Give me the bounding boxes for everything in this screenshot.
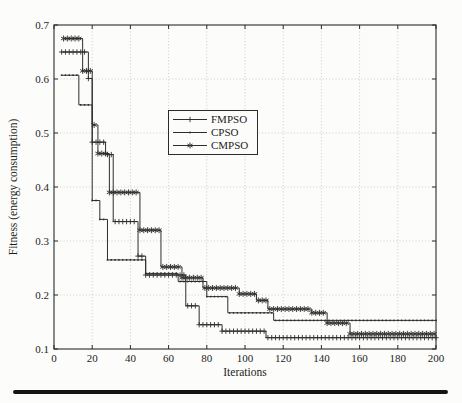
- svg-text:0.3: 0.3: [35, 235, 49, 247]
- svg-text:0.4: 0.4: [35, 181, 49, 193]
- legend-item-fmpso: FMPSO: [172, 113, 257, 126]
- plus-marker-icon: [172, 114, 208, 125]
- svg-text:200: 200: [428, 352, 445, 364]
- dot-marker-icon: [172, 127, 208, 138]
- svg-text:20: 20: [87, 352, 99, 364]
- svg-text:180: 180: [390, 352, 407, 364]
- svg-text:0.1: 0.1: [35, 343, 49, 355]
- legend-item-cpso: CPSO: [172, 126, 257, 139]
- x-axis-title: Iterations: [54, 366, 436, 378]
- svg-text:0.2: 0.2: [35, 289, 49, 301]
- svg-text:0.7: 0.7: [35, 19, 49, 31]
- svg-text:0.6: 0.6: [35, 73, 49, 85]
- svg-text:120: 120: [275, 352, 292, 364]
- legend: FMPSO CPSO CMPSO: [168, 110, 258, 155]
- svg-text:0: 0: [51, 352, 57, 364]
- legend-label: CMPSO: [211, 140, 248, 151]
- asterisk-marker-icon: [172, 140, 208, 151]
- legend-label: FMPSO: [211, 114, 247, 125]
- legend-item-cmpso: CMPSO: [172, 139, 257, 152]
- svg-text:160: 160: [351, 352, 368, 364]
- svg-text:100: 100: [237, 352, 254, 364]
- figure: 0204060801001201401601802000.10.20.30.40…: [0, 0, 462, 403]
- y-axis-title: Fitness (energy consumption): [7, 119, 19, 256]
- svg-text:0.5: 0.5: [35, 127, 49, 139]
- legend-label: CPSO: [211, 127, 239, 138]
- svg-text:80: 80: [201, 352, 213, 364]
- svg-text:60: 60: [163, 352, 175, 364]
- line-chart: 0204060801001201401601802000.10.20.30.40…: [0, 0, 462, 403]
- bottom-rule: [13, 390, 448, 394]
- svg-text:40: 40: [125, 352, 137, 364]
- svg-text:140: 140: [313, 352, 330, 364]
